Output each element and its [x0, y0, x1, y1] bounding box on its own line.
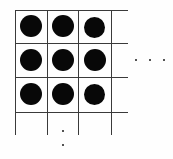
ellipsis-dot	[62, 130, 64, 132]
lattice-circle	[84, 49, 106, 71]
figure-description: A 3 by 3 portion of a square grid, each …	[0, 0, 1, 1]
grid-line-vertical	[111, 10, 112, 135]
figure-title: Infinite square lattice of filled circle…	[0, 0, 1, 1]
lattice-circle	[20, 83, 42, 105]
lattice-circle	[84, 17, 105, 38]
grid-line-vertical	[47, 10, 48, 135]
lattice-circle	[20, 49, 42, 71]
ellipsis-dot	[149, 59, 151, 61]
ellipsis-dot	[135, 59, 137, 61]
ellipsis-dot	[163, 59, 165, 61]
lattice-circle	[52, 15, 74, 37]
lattice-circle	[52, 83, 74, 105]
lattice-circle	[20, 15, 42, 37]
lattice-circle	[52, 49, 74, 71]
ellipsis-dot	[62, 144, 64, 146]
grid-line-vertical	[78, 10, 79, 135]
lattice-circle	[84, 84, 105, 105]
grid-line-vertical	[15, 10, 16, 135]
lattice-figure: Infinite square lattice of filled circle…	[0, 0, 173, 159]
